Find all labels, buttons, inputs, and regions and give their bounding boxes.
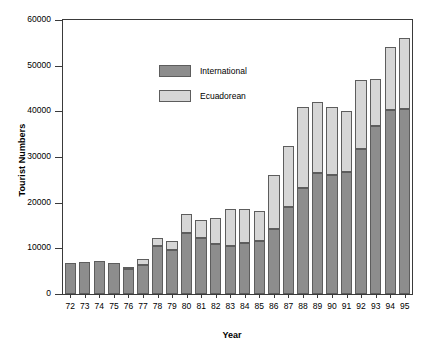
y-axis-tick: 0 [55, 294, 63, 295]
bar [312, 102, 323, 294]
bar-segment-international [181, 233, 192, 294]
bar [137, 259, 148, 294]
x-axis-tick [143, 294, 144, 298]
bar-segment-international [123, 269, 134, 294]
bar-segment-international [399, 109, 410, 294]
y-axis-tick-label: 10000 [27, 242, 51, 253]
y-axis-tick: 30000 [55, 157, 63, 158]
y-axis-tick: 20000 [55, 203, 63, 204]
bar-segment-international [65, 263, 76, 294]
x-axis-tick [201, 294, 202, 298]
bar-segment-ecuadorean [239, 209, 250, 243]
legend-swatch-ecuadorean [159, 90, 191, 102]
x-axis-tick [114, 294, 115, 298]
y-axis-tick-label: 30000 [27, 151, 51, 162]
x-axis-tick [405, 294, 406, 298]
bar-segment-ecuadorean [152, 238, 163, 245]
x-axis-tick [288, 294, 289, 298]
bar-segment-international [268, 229, 279, 294]
bar [65, 263, 76, 294]
y-axis-tick: 10000 [55, 248, 63, 249]
x-axis-tick [99, 294, 100, 298]
bar [254, 211, 265, 294]
bar [341, 111, 352, 294]
bar [79, 262, 90, 294]
bar-segment-ecuadorean [312, 102, 323, 172]
x-axis-tick [317, 294, 318, 298]
x-axis-tick [376, 294, 377, 298]
legend-label-international: International [200, 66, 247, 76]
bar-segment-ecuadorean [123, 267, 134, 270]
y-axis-tick-label: 20000 [27, 197, 51, 208]
bar-segment-ecuadorean [137, 259, 148, 265]
x-axis-tick [332, 294, 333, 298]
y-axis-tick-label: 40000 [27, 105, 51, 116]
bar [195, 220, 206, 294]
bar-segment-international [166, 250, 177, 294]
bar-segment-international [283, 207, 294, 294]
bar [123, 267, 134, 294]
bar-segment-ecuadorean [297, 107, 308, 188]
bar [326, 107, 337, 294]
bar [152, 238, 163, 294]
y-axis-tick: 40000 [55, 111, 63, 112]
y-axis-tick-label: 0 [46, 288, 51, 299]
bar [181, 214, 192, 294]
legend-item: Ecuadorean [159, 89, 247, 103]
x-axis-tick [187, 294, 188, 298]
bar-segment-international [355, 149, 366, 294]
x-axis-tick [158, 294, 159, 298]
x-axis-tick [230, 294, 231, 298]
bar-segment-international [385, 110, 396, 294]
bar-segment-ecuadorean [399, 38, 410, 109]
chart-legend: International Ecuadorean [159, 64, 247, 114]
bar-segment-international [137, 265, 148, 294]
bar [399, 38, 410, 294]
bar-segment-international [225, 246, 236, 294]
x-axis-tick [347, 294, 348, 298]
bar-segment-international [152, 246, 163, 294]
bar-segment-ecuadorean [341, 111, 352, 172]
y-axis-tick-label: 60000 [27, 14, 51, 25]
bar [355, 80, 366, 294]
bar [239, 209, 250, 294]
y-axis-title: Tourist Numbers [17, 90, 27, 230]
bar [210, 218, 221, 294]
x-axis-tick [85, 294, 86, 298]
bar-segment-ecuadorean [210, 218, 221, 244]
x-axis-tick [70, 294, 71, 298]
bar-segment-international [370, 126, 381, 294]
bar-segment-ecuadorean [385, 47, 396, 110]
bar-segment-international [239, 243, 250, 294]
bar [283, 146, 294, 294]
bar [385, 47, 396, 294]
chart-figure: Tourist Numbers 010000200003000040000500… [0, 0, 443, 352]
bar-segment-ecuadorean [181, 214, 192, 233]
x-axis-tick [216, 294, 217, 298]
x-axis-tick [245, 294, 246, 298]
bar [297, 107, 308, 294]
x-axis-tick [303, 294, 304, 298]
x-axis-title: Year [52, 330, 412, 340]
y-axis-tick: 60000 [55, 20, 63, 21]
bar-segment-international [94, 261, 105, 294]
bar-segment-ecuadorean [370, 79, 381, 126]
bar-segment-international [254, 241, 265, 294]
bar [166, 241, 177, 294]
bar-segment-ecuadorean [254, 211, 265, 242]
bar [108, 263, 119, 295]
bar-segment-international [326, 175, 337, 294]
bar [370, 79, 381, 294]
bar-segment-international [210, 244, 221, 294]
bar [268, 175, 279, 294]
x-axis-tick [128, 294, 129, 298]
bar-segment-international [297, 188, 308, 294]
x-axis-tick [390, 294, 391, 298]
bar-segment-international [79, 262, 90, 294]
x-axis-tick [259, 294, 260, 298]
bar-segment-ecuadorean [355, 80, 366, 149]
x-axis-tick-label: 95 [395, 301, 415, 311]
x-axis-tick [274, 294, 275, 298]
y-axis-tick: 50000 [55, 66, 63, 67]
bar-segment-international [108, 263, 119, 295]
